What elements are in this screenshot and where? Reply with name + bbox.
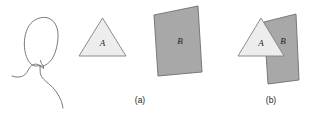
figure-canvas: A B (a) B A (b) bbox=[0, 0, 311, 114]
triangle-a-overlapping-label: A bbox=[257, 38, 264, 48]
quadrilateral-b-label: B bbox=[177, 36, 183, 46]
figure-container: A B (a) B A (b) bbox=[0, 0, 311, 114]
triangle-a-label: A bbox=[99, 38, 106, 48]
panel-a-caption: (a) bbox=[135, 95, 146, 105]
panel-b-caption: (b) bbox=[266, 95, 277, 105]
quadrilateral-b-overlapped-label: B bbox=[280, 36, 286, 46]
